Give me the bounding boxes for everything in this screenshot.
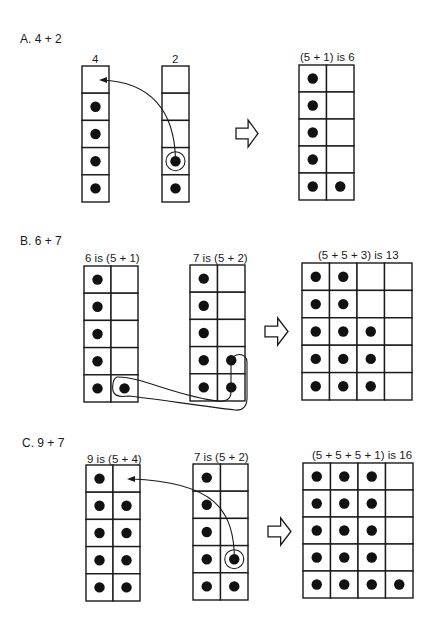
addend-1-grid [84, 266, 138, 402]
counter-dot [199, 273, 209, 283]
counter-dot [121, 501, 131, 511]
counter-dot [366, 326, 376, 336]
grid-cell [218, 319, 246, 346]
section-a [82, 65, 354, 202]
counter-dot [311, 272, 321, 282]
counter-dot [312, 498, 322, 508]
counter-dot [339, 525, 349, 535]
counter-dot [94, 555, 104, 565]
counter-dot [202, 472, 212, 482]
addend-1-grid [86, 465, 140, 601]
counter-dot [94, 473, 104, 483]
right-arrow-icon [265, 318, 288, 345]
counter-dot [199, 355, 209, 365]
result-grid [303, 463, 413, 598]
counter-dot [308, 181, 318, 191]
addend-1-grid [82, 66, 109, 202]
grid-cell [327, 92, 355, 119]
grid-cell [386, 490, 414, 517]
counter-dot [202, 554, 212, 564]
counter-dot [311, 381, 321, 391]
counter-dot [94, 528, 104, 538]
grid-cell [385, 290, 413, 317]
counter-dot [94, 501, 104, 511]
counter-dot [202, 581, 212, 591]
grid-cell [221, 518, 249, 545]
counter-dot [339, 552, 349, 562]
right-arrow-icon [236, 120, 258, 147]
counter-dot [121, 582, 131, 592]
counter-dot [366, 381, 376, 391]
counter-dot [202, 500, 212, 510]
counter-dot [339, 471, 349, 481]
counter-dot [339, 498, 349, 508]
counter-dot [92, 383, 102, 393]
grid-cell [385, 263, 413, 290]
counter-dot [367, 525, 377, 535]
grid-cell [111, 293, 138, 320]
counter-dot [119, 383, 129, 393]
addend-2-grid [190, 265, 245, 401]
counter-dot [338, 354, 348, 364]
counter-dot [338, 272, 348, 282]
counter-dot [92, 302, 102, 312]
section-c [86, 463, 413, 601]
result-grid [302, 263, 412, 400]
right-arrow-icon [268, 518, 291, 545]
counter-dot [308, 127, 318, 137]
counter-dot [338, 299, 348, 309]
counter-dot [92, 274, 102, 284]
grid-cell [357, 263, 385, 290]
grid-cell [327, 65, 355, 92]
grid-cell [162, 66, 189, 93]
grid-cell [162, 120, 189, 147]
grid-cell [327, 146, 355, 173]
counter-dot [367, 498, 377, 508]
result-grid [299, 65, 354, 200]
counter-dot [308, 73, 318, 83]
counter-dot [199, 328, 209, 338]
counter-dot [311, 354, 321, 364]
counter-dot [312, 525, 322, 535]
ten-frame-diagram [0, 0, 437, 633]
grid-cell [357, 290, 385, 317]
counter-dot [311, 326, 321, 336]
counter-dot [308, 154, 318, 164]
counter-dot [121, 555, 131, 565]
counter-dot [338, 381, 348, 391]
counter-dot [92, 329, 102, 339]
grid-cell [327, 119, 355, 146]
grid-cell [218, 292, 246, 319]
counter-dot [367, 552, 377, 562]
section-b [84, 263, 412, 410]
counter-dot [90, 102, 100, 112]
addend-2-grid [193, 464, 248, 600]
grid-cell [111, 266, 138, 293]
counter-dot [229, 581, 239, 591]
grid-cell [111, 348, 138, 375]
counter-dot [338, 326, 348, 336]
counter-dot [199, 301, 209, 311]
counter-dot [367, 471, 377, 481]
grid-cell [385, 345, 413, 372]
counter-dot [199, 382, 209, 392]
counter-dot [312, 579, 322, 589]
counter-dot [394, 579, 404, 589]
counter-dot [90, 129, 100, 139]
grid-cell [218, 265, 246, 292]
grid-cell [386, 544, 414, 571]
counter-dot [366, 354, 376, 364]
counter-dot [308, 100, 318, 110]
counter-dot [90, 183, 100, 193]
counter-dot [339, 579, 349, 589]
grid-cell [386, 463, 414, 490]
counter-dot [170, 183, 180, 193]
counter-dot [312, 552, 322, 562]
grid-cell [385, 373, 413, 400]
counter-dot [312, 471, 322, 481]
addend-2-grid [162, 66, 189, 202]
counter-dot [92, 356, 102, 366]
counter-dot [121, 528, 131, 538]
grid-cell [385, 318, 413, 345]
grid-cell [221, 464, 249, 491]
